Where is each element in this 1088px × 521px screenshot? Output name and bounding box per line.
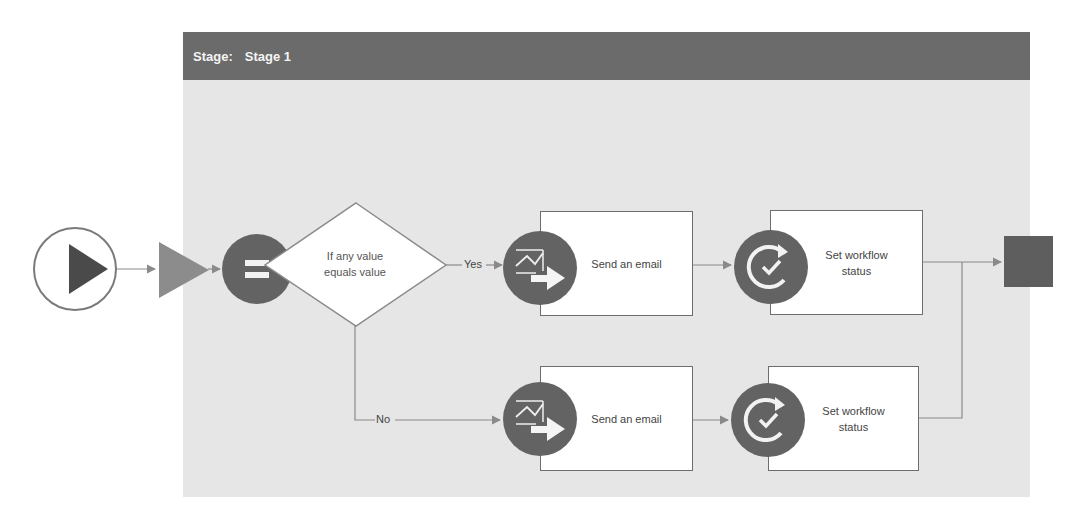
no-send-email-icon-circle[interactable]	[503, 382, 577, 456]
yes-set-status-label-line1: Set workflow	[825, 247, 887, 263]
yes-set-status-icon-circle[interactable]	[734, 230, 808, 304]
condition-text-line1: If any value	[300, 248, 410, 264]
end-node[interactable]	[1004, 236, 1053, 287]
set-status-icon	[731, 383, 805, 457]
stage-entry-triangle-icon[interactable]	[157, 240, 212, 300]
no-set-status-label-line1: Set workflow	[822, 403, 884, 419]
play-icon	[35, 229, 115, 309]
start-node[interactable]	[33, 227, 117, 311]
send-email-icon	[503, 231, 577, 305]
condition-text: If any value equals value	[300, 248, 410, 280]
condition-text-line2: equals value	[300, 264, 410, 280]
yes-send-email-label: Send an email	[571, 256, 661, 272]
send-email-icon	[503, 382, 577, 456]
no-send-email-label: Send an email	[571, 411, 661, 427]
no-branch-label: No	[375, 413, 391, 425]
no-set-status-icon-circle[interactable]	[731, 383, 805, 457]
yes-branch-label: Yes	[463, 258, 483, 270]
set-status-icon	[734, 230, 808, 304]
yes-set-status-label-line2: status	[825, 263, 887, 279]
no-set-status-label-line2: status	[822, 419, 884, 435]
yes-send-email-icon-circle[interactable]	[503, 231, 577, 305]
